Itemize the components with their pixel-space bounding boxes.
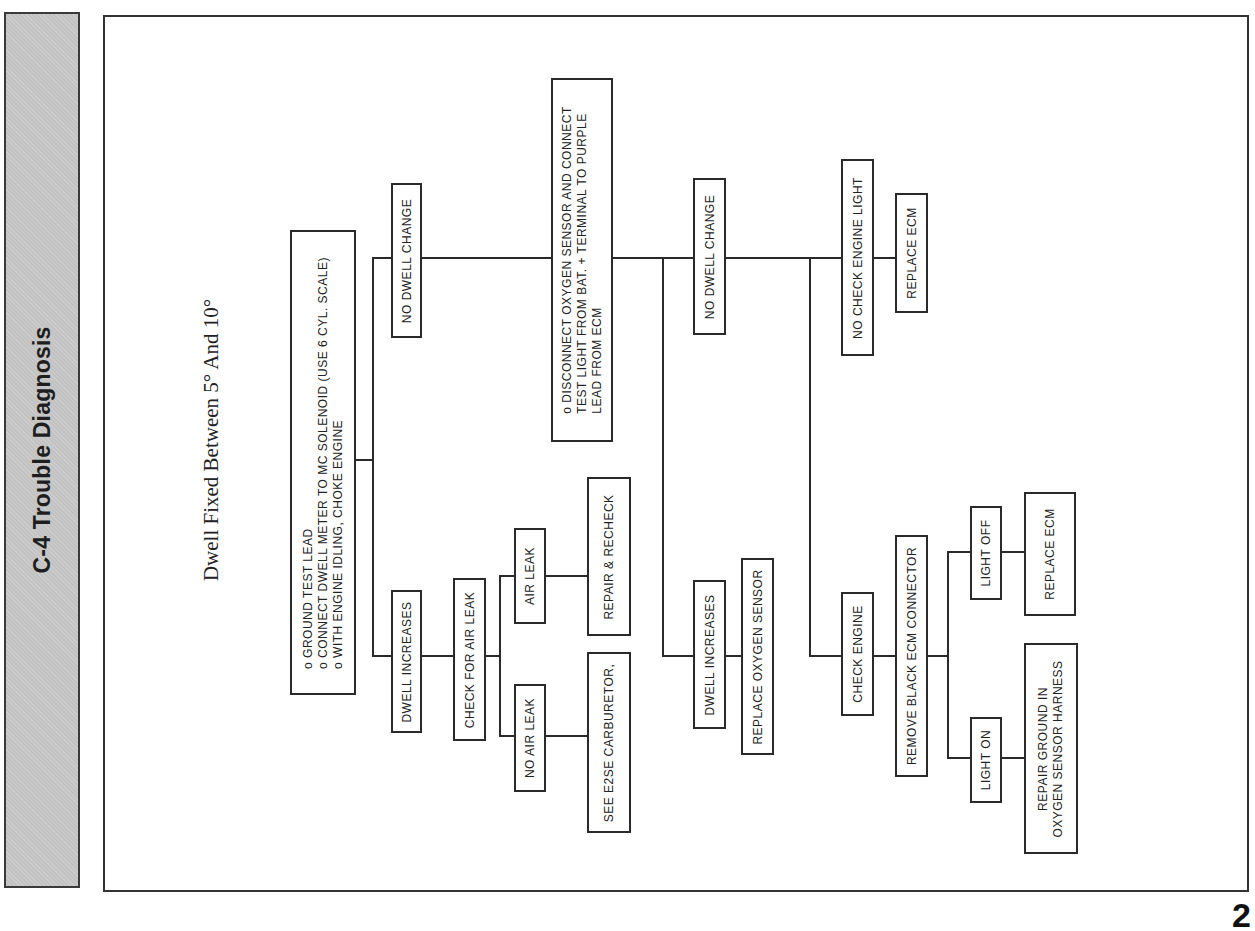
page-number: 2 <box>1232 898 1251 931</box>
connector <box>486 655 500 657</box>
node-replace-ecm: REPLACE ECM <box>895 193 928 313</box>
connector <box>499 575 501 737</box>
node-light-off: LIGHT OFF <box>970 506 1002 600</box>
node-remove-black-ecm-connector: REMOVE BLACK ECM CONNECTOR <box>895 535 928 777</box>
connector <box>726 655 742 657</box>
connector <box>372 257 374 657</box>
connector <box>874 655 896 657</box>
connector <box>662 655 694 657</box>
connector <box>1002 757 1025 759</box>
connector <box>372 655 392 657</box>
connector <box>809 257 811 657</box>
node-replace-ecm-2: REPLACE ECM <box>1024 492 1076 616</box>
connector <box>874 257 896 259</box>
node-no-check-engine-light: NO CHECK ENGINE LIGHT <box>841 159 874 356</box>
connector <box>947 757 971 759</box>
connector <box>356 459 373 461</box>
connector <box>947 551 971 553</box>
connector <box>546 735 588 737</box>
sidebar-title-band: C-4 Trouble Diagnosis <box>4 12 80 888</box>
connector <box>662 257 664 657</box>
connector <box>372 257 392 259</box>
node-light-on: LIGHT ON <box>970 717 1002 803</box>
instruction-line: o DISCONNECT OXYGEN SENSOR AND CONNECT <box>560 106 575 414</box>
node-repair-ground-oxygen-sensor-harness: REPAIR GROUND IN OXYGEN SENSOR HARNESS <box>1024 643 1078 854</box>
instruction-line: LEAD FROM ECM <box>590 106 605 414</box>
node-air-leak: AIR LEAK <box>514 528 546 624</box>
connector <box>726 257 842 259</box>
node-no-air-leak: NO AIR LEAK <box>514 684 546 792</box>
connector <box>613 257 693 259</box>
connector <box>499 575 515 577</box>
diagram-heading: Dwell Fixed Between 5° And 10° <box>199 299 224 581</box>
connector <box>546 575 588 577</box>
instruction-line: o CONNECT DWELL METER TO MC SOLENOID (US… <box>316 257 331 669</box>
node-dwell-increases: DWELL INCREASES <box>391 590 422 733</box>
node-no-dwell-change-2: NO DWELL CHANGE <box>693 178 726 335</box>
connector <box>1002 551 1025 553</box>
connector <box>422 655 454 657</box>
section-title: C-4 Trouble Diagnosis <box>29 326 56 573</box>
instruction-line: o GROUND TEST LEAD <box>301 257 316 669</box>
node-repair-recheck: REPAIR & RECHECK <box>587 477 631 636</box>
connector <box>947 551 949 759</box>
node-start-instructions: o GROUND TEST LEAD o CONNECT DWELL METER… <box>290 230 356 695</box>
node-dwell-increases-2: DWELL INCREASES <box>693 580 726 729</box>
connector <box>928 655 948 657</box>
connector <box>499 735 515 737</box>
node-replace-oxygen-sensor: REPLACE OXYGEN SENSOR <box>741 558 774 755</box>
instruction-line: TEST LIGHT FROM BAT. + TERMINAL TO PURPL… <box>575 106 590 414</box>
node-check-air-leak: CHECK FOR AIR LEAK <box>453 578 486 741</box>
connector <box>809 655 843 657</box>
instruction-line: o WITH ENGINE IDLING, CHOKE ENGINE <box>331 257 346 669</box>
node-check-engine: CHECK ENGINE <box>841 592 874 716</box>
node-disconnect-oxygen-sensor: o DISCONNECT OXYGEN SENSOR AND CONNECT T… <box>551 78 613 442</box>
node-see-e2se-carburetor: SEE E2SE CARBURETOR, <box>587 652 631 833</box>
connector <box>422 257 552 259</box>
node-no-dwell-change: NO DWELL CHANGE <box>391 183 422 338</box>
